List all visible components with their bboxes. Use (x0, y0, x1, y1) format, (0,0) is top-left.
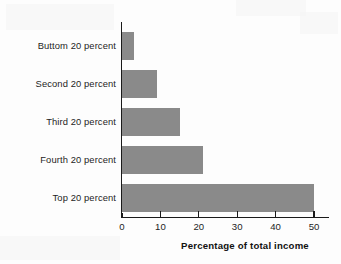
y-axis-label-0: Buttom 20 percent (38, 40, 117, 51)
x-axis-title: Percentage of total income (181, 240, 309, 251)
y-axis-label-1: Second 20 percent (36, 78, 117, 89)
bar-chart: Buttom 20 percent Second 20 percent Thir… (0, 0, 341, 264)
bar-3 (122, 146, 203, 174)
x-tick-label-2: 20 (193, 221, 204, 232)
bar-1 (122, 70, 157, 98)
x-tick-label-3: 30 (232, 221, 243, 232)
chart-container: Buttom 20 percent Second 20 percent Thir… (0, 0, 341, 264)
x-tick-label-1: 10 (155, 221, 166, 232)
bar-4 (122, 184, 314, 212)
y-axis-label-3: Fourth 20 percent (40, 154, 116, 165)
y-axis-label-2: Third 20 percent (46, 116, 116, 127)
x-tick-label-5: 50 (309, 221, 320, 232)
x-tick-label-4: 40 (270, 221, 281, 232)
bar-2 (122, 108, 180, 136)
bar-0 (122, 32, 134, 60)
x-tick-label-0: 0 (119, 221, 124, 232)
y-axis-label-4: Top 20 percent (53, 192, 117, 203)
